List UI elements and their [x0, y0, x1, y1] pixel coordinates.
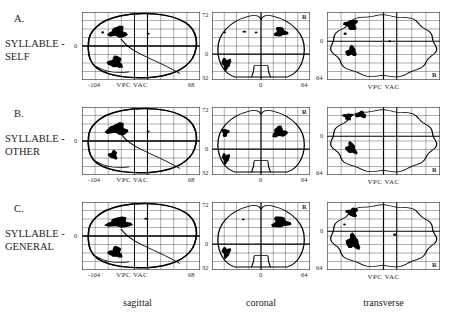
sagittal-x-right-label: 68 [188, 81, 195, 88]
transverse-y-bottom-label: 64 [316, 169, 323, 176]
panel-coronal-row-0 [212, 12, 310, 80]
column-label-coronal: coronal [246, 297, 276, 308]
coronal-y-bottom-label: 32 [202, 264, 209, 271]
sagittal-x-right-label: 68 [188, 271, 195, 278]
panel-sagittal-row-0 [82, 12, 200, 80]
transverse-y-bottom-label: 64 [316, 264, 323, 271]
coronal-x-right-label: 64 [301, 176, 308, 183]
row-label-line2-2: GENERAL [5, 241, 54, 254]
coronal-hemisphere-marker: R [302, 13, 307, 20]
row-label-line1-0: SYLLABLE - [5, 38, 65, 51]
coronal-hemisphere-marker: R [302, 203, 307, 210]
projection-sagittal [82, 107, 200, 175]
panel-transverse-row-0 [327, 12, 440, 80]
row-letter-2: C. [14, 203, 24, 214]
activation-blobs [221, 125, 288, 165]
transverse-hemisphere-marker: R [432, 71, 437, 78]
coronal-y-top-label: 72 [202, 11, 209, 18]
sagittal-x-left-label: -104 [88, 81, 100, 88]
coronal-y-bottom-label: 32 [202, 74, 209, 81]
projection-coronal [212, 202, 310, 270]
transverse-y-bottom-label: 64 [316, 74, 323, 81]
sagittal-x-left-label: -104 [88, 176, 100, 183]
coronal-y-bottom-label: 32 [202, 169, 209, 176]
transverse-hemisphere-marker: R [432, 261, 437, 268]
transverse-commissure-label: VPC VAC [368, 83, 400, 91]
projection-transverse [327, 202, 440, 270]
projection-transverse [327, 12, 440, 80]
coronal-x-center-label: 0 [259, 271, 262, 278]
projection-transverse [327, 107, 440, 175]
panel-transverse-row-1 [327, 107, 440, 175]
projection-coronal [212, 12, 310, 80]
sagittal-commissure-label: VPC VAC [116, 176, 148, 184]
column-label-transverse: transverse [363, 297, 404, 308]
coronal-y-top-label: 72 [202, 201, 209, 208]
sagittal-commissure-label: VPC VAC [116, 271, 148, 279]
transverse-y-zero-label: 0 [320, 227, 323, 234]
coronal-y-zero-label: 0 [205, 240, 208, 247]
sagittal-y-zero-label: 0 [74, 137, 77, 144]
column-label-sagittal: sagittal [123, 297, 152, 308]
projection-sagittal [82, 12, 200, 80]
row-label-line2-0: SELF [5, 51, 30, 64]
sagittal-x-left-label: -104 [88, 271, 100, 278]
coronal-x-center-label: 0 [259, 176, 262, 183]
row-letter-1: B. [14, 108, 24, 119]
projection-coronal [212, 107, 310, 175]
row-label-line1-2: SYLLABLE - [5, 228, 65, 241]
transverse-y-zero-label: 0 [320, 37, 323, 44]
transverse-hemisphere-marker: R [432, 166, 437, 173]
activation-blobs [104, 216, 148, 257]
transverse-commissure-label: VPC VAC [368, 273, 400, 281]
sagittal-commissure-label: VPC VAC [116, 81, 148, 89]
panel-coronal-row-2 [212, 202, 310, 270]
activation-blobs [101, 26, 149, 69]
coronal-y-zero-label: 0 [205, 50, 208, 57]
coronal-x-center-label: 0 [259, 81, 262, 88]
coronal-hemisphere-marker: R [302, 108, 307, 115]
coronal-y-top-label: 72 [202, 106, 209, 113]
transverse-y-zero-label: 0 [320, 132, 323, 139]
activation-blobs [342, 111, 366, 159]
transverse-commissure-label: VPC VAC [368, 178, 400, 186]
row-label-line2-1: OTHER [5, 146, 40, 159]
sagittal-x-right-label: 68 [188, 176, 195, 183]
projection-sagittal [82, 202, 200, 270]
panel-sagittal-row-2 [82, 202, 200, 270]
row-letter-0: A. [14, 13, 25, 24]
panel-sagittal-row-1 [82, 107, 200, 175]
glass-brain-figure: A.SYLLABLE -SELF0-10468VPC VAC72032064R0… [0, 0, 449, 321]
coronal-x-right-label: 64 [301, 81, 308, 88]
panel-transverse-row-2 [327, 202, 440, 270]
panel-coronal-row-1 [212, 107, 310, 175]
activation-blobs [222, 27, 289, 72]
coronal-y-zero-label: 0 [205, 145, 208, 152]
row-label-line1-1: SYLLABLE - [5, 133, 65, 146]
sagittal-y-zero-label: 0 [74, 232, 77, 239]
sagittal-y-zero-label: 0 [74, 42, 77, 49]
coronal-x-right-label: 64 [301, 271, 308, 278]
